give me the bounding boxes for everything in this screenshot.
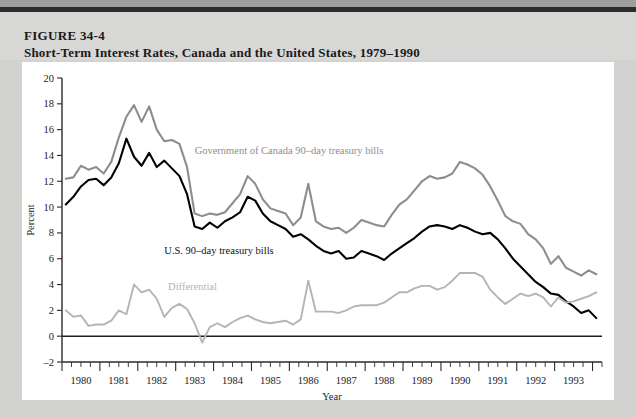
x-tick-label: 1992	[525, 375, 546, 386]
x-tick-label: 1984	[222, 375, 244, 386]
y-tick-label: 0	[49, 331, 54, 342]
x-tick-label: 1983	[184, 375, 205, 386]
y-tick-label: 16	[44, 124, 55, 135]
figure-page: FIGURE 34-4 Short-Term Interest Rates, C…	[0, 0, 636, 418]
interest-rate-line-chart: –202468101214161820 19801981198219831984…	[22, 62, 614, 400]
figure-number: FIGURE 34-4	[24, 28, 105, 44]
x-tick-label: 1985	[260, 375, 281, 386]
x-tick-label: 1987	[336, 375, 357, 386]
y-tick-label: –2	[43, 357, 55, 368]
x-tick-label: 1993	[563, 375, 584, 386]
x-tick-label: 1980	[70, 375, 91, 386]
y-tick-label: 18	[44, 98, 55, 109]
x-tick-label: 1982	[146, 375, 167, 386]
figure-title: Short-Term Interest Rates, Canada and th…	[24, 45, 420, 61]
y-tick-label: 12	[44, 176, 55, 187]
y-tick-label: 8	[49, 227, 54, 238]
x-tick-label: 1986	[298, 375, 319, 386]
y-axis-title: Percent	[25, 204, 36, 236]
y-tick-label: 10	[44, 202, 55, 213]
y-tick-label: 14	[44, 150, 55, 161]
x-tick-label: 1988	[374, 375, 395, 386]
y-tick-label: 4	[49, 279, 55, 290]
label-differential: Differential	[168, 281, 217, 292]
x-tick-label: 1989	[412, 375, 433, 386]
series-line	[66, 105, 597, 275]
x-tick-label: 1981	[108, 375, 129, 386]
y-axis-tick-labels: –202468101214161820	[43, 73, 55, 368]
series-line	[66, 273, 597, 343]
x-tick-label: 1990	[449, 375, 470, 386]
chart-panel: –202468101214161820 19801981198219831984…	[22, 62, 614, 400]
x-axis-title: Year	[322, 391, 342, 400]
y-tick-label: 6	[49, 253, 54, 264]
label-us: U.S. 90–day treasury bills	[164, 245, 273, 256]
chart-annotations: Government of Canada 90–day treasury bil…	[164, 145, 383, 292]
chart-series-group	[66, 105, 597, 343]
x-tick-label: 1991	[487, 375, 508, 386]
figure-header: FIGURE 34-4 Short-Term Interest Rates, C…	[0, 12, 636, 60]
top-band	[0, 0, 636, 7]
x-axis-tick-labels: 1980198119821983198419851986198719881989…	[70, 375, 584, 386]
footer-band: Canadian short-term interest rates have …	[0, 400, 636, 418]
label-canada: Government of Canada 90–day treasury bil…	[195, 145, 384, 156]
y-tick-label: 20	[44, 73, 55, 84]
y-tick-label: 2	[49, 305, 54, 316]
